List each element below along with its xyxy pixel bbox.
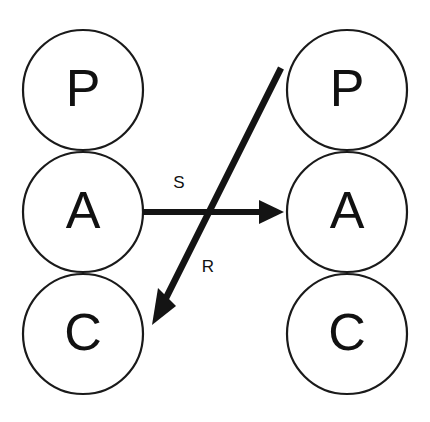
stimulus-arrow-head — [259, 200, 284, 224]
node-right-c[interactable]: C — [287, 274, 407, 394]
response-arrow[interactable]: R — [152, 68, 281, 325]
stimulus-arrow-label: S — [173, 173, 184, 192]
node-label: P — [330, 59, 365, 117]
node-label: A — [66, 181, 101, 239]
node-left-a[interactable]: A — [23, 152, 143, 272]
right-pac-agent: P A C — [287, 30, 407, 394]
node-right-p[interactable]: P — [287, 30, 407, 150]
left-pac-agent: P A C — [23, 30, 143, 394]
node-left-c[interactable]: C — [23, 274, 143, 394]
diagram-canvas: P A C P A C — [0, 0, 430, 422]
node-label: P — [66, 59, 101, 117]
node-right-a[interactable]: A — [287, 152, 407, 272]
response-arrow-label: R — [202, 257, 214, 276]
node-left-p[interactable]: P — [23, 30, 143, 150]
node-label: C — [328, 303, 366, 361]
pac-diagram: P A C P A C — [0, 0, 430, 422]
response-arrow-head — [152, 288, 176, 325]
node-label: A — [330, 181, 365, 239]
node-label: C — [64, 303, 102, 361]
